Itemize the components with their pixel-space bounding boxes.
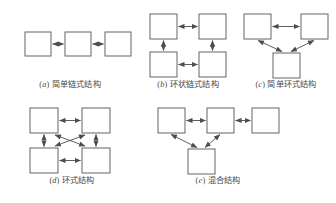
- diagram-panel-c: (c) 简单环式结构: [238, 6, 334, 96]
- panel-caption-d: (d) 环式结构: [22, 176, 122, 186]
- diagram-d-canvas: [22, 102, 122, 176]
- diagram-a-canvas: [4, 18, 136, 80]
- caption-close-paren: ): [202, 176, 205, 185]
- node-box: [82, 148, 110, 173]
- diagram-panel-d: (d) 环式结构: [22, 102, 122, 194]
- node-box: [25, 32, 51, 56]
- panel-caption-b: (b) 环状链式结构: [140, 80, 236, 90]
- node-box: [82, 108, 110, 133]
- caption-close-paren: ): [164, 80, 167, 89]
- node-box: [105, 32, 131, 56]
- diagram-b-canvas: [140, 6, 236, 80]
- edge-diagonal-bidirectional: [205, 135, 220, 148]
- node-box: [199, 52, 226, 77]
- node-box: [188, 149, 215, 174]
- node-box: [150, 52, 177, 77]
- caption-close-paren: ): [262, 80, 265, 89]
- caption-label-c: 简单环式结构: [267, 80, 316, 89]
- node-box: [207, 108, 234, 133]
- node-box: [252, 108, 279, 133]
- diagram-panel-a: (a) 简单链式结构: [4, 18, 136, 96]
- node-box: [158, 108, 185, 133]
- panel-caption-e: (e) 混合结构: [152, 176, 284, 186]
- caption-close-paren: ): [57, 176, 60, 185]
- figure-root: (a) 简单链式结构 (b) 环状链式结构: [0, 0, 336, 203]
- node-box: [244, 14, 271, 39]
- edge-diagonal-bidirectional: [291, 41, 314, 52]
- edge-diagonal-bidirectional: [258, 41, 282, 52]
- node-box: [150, 14, 177, 39]
- node-box: [273, 53, 300, 78]
- node-box: [30, 108, 58, 133]
- diagram-panel-b: (b) 环状链式结构: [140, 6, 236, 96]
- panel-caption-a: (a) 简单链式结构: [4, 80, 136, 90]
- edge-diagonal-bidirectional: [171, 135, 197, 148]
- diagram-e-canvas: [152, 102, 284, 176]
- caption-label-a: 简单链式结构: [52, 80, 101, 89]
- diagram-c-canvas: [238, 6, 334, 80]
- caption-label-b: 环状链式结构: [170, 80, 219, 89]
- caption-label-d: 环式结构: [62, 176, 95, 185]
- node-box: [65, 32, 91, 56]
- panel-caption-c: (c) 简单环式结构: [238, 80, 334, 90]
- node-box: [199, 14, 226, 39]
- node-box: [30, 148, 58, 173]
- diagram-panel-e: (e) 混合结构: [152, 102, 284, 194]
- caption-label-e: 混合结构: [208, 176, 241, 185]
- node-box: [301, 14, 328, 39]
- caption-close-paren: ): [46, 80, 49, 89]
